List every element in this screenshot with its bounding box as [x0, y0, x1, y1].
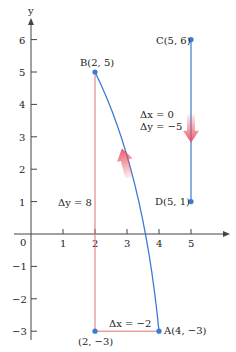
y-tick-label: 1 — [19, 197, 25, 208]
y-tick-label: −2 — [12, 294, 27, 305]
y-tick-label: 2 — [19, 164, 25, 175]
x-tick-label: 1 — [60, 238, 66, 249]
x-tick-label: 4 — [156, 238, 162, 249]
y-tick-label: −3 — [12, 326, 27, 337]
point-corner-marker — [92, 329, 97, 334]
x-axis-arrow-icon — [223, 231, 230, 237]
y-tick-label: 6 — [19, 35, 25, 46]
y-tick-label: 3 — [19, 132, 25, 143]
point-c-label: C(5, 6) — [156, 35, 191, 46]
y-axis-arrow-icon — [28, 18, 34, 25]
x-tick-label: 3 — [124, 238, 130, 249]
delta-x-ab-label: Δx = −2 — [109, 318, 151, 329]
delta-y-ab-label: Δy = 8 — [58, 197, 92, 208]
point-b-label: B(2, 5) — [80, 57, 114, 68]
x-tick-label: 5 — [188, 238, 194, 249]
origin-label: 0 — [20, 237, 26, 248]
point-a-label: A(4, −3) — [163, 325, 207, 336]
point-a-marker — [156, 329, 161, 334]
point-d-label: D(5, 1) — [155, 196, 190, 207]
y-axis-label: y — [27, 5, 34, 16]
y-tick-label: 5 — [19, 67, 25, 78]
corner-point-label: (2, −3) — [78, 336, 113, 347]
point-b-marker — [92, 69, 97, 74]
y-tick-label: −1 — [12, 261, 27, 272]
delta-y-cd-label: Δy = −5 — [140, 121, 182, 132]
coordinate-diagram: y 0 12345 654321−1−2−3 B(2, 5) C(5, 6) D… — [0, 0, 236, 352]
y-tick-label: 4 — [19, 99, 25, 110]
downward-arrow-icon — [183, 115, 199, 143]
delta-x-cd-label: Δx = 0 — [140, 109, 174, 120]
